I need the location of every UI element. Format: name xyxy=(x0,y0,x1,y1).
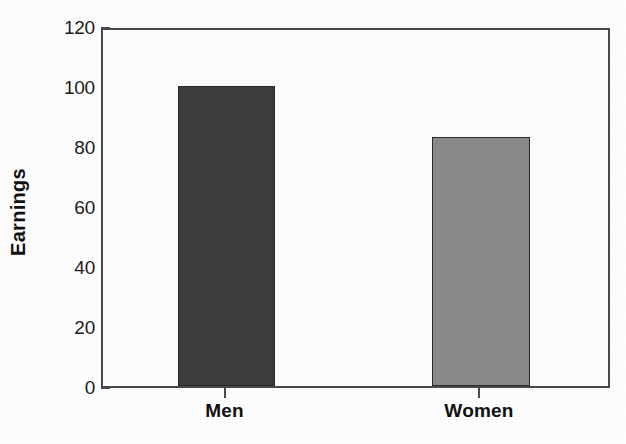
y-tick-label: 0 xyxy=(85,377,95,399)
plot-frame xyxy=(101,28,610,388)
y-tick-label: 40 xyxy=(74,257,95,279)
y-tick-label: 80 xyxy=(74,137,95,159)
y-axis-title: Earnings xyxy=(7,168,30,256)
plot-area xyxy=(103,30,608,386)
bar-women xyxy=(432,137,530,386)
y-tick-label: 60 xyxy=(74,197,95,219)
x-tick-mark xyxy=(224,388,226,398)
bar-men xyxy=(178,86,275,386)
x-tick-label-women: Women xyxy=(444,400,513,422)
x-tick-mark xyxy=(478,388,480,398)
bar-chart-figure: Earnings 120100806040200 MenWomen xyxy=(0,0,626,444)
y-tick-label: 20 xyxy=(74,317,95,339)
y-tick-label: 120 xyxy=(64,17,95,39)
x-tick-label-men: Men xyxy=(205,400,244,422)
y-tick-label: 100 xyxy=(64,77,95,99)
